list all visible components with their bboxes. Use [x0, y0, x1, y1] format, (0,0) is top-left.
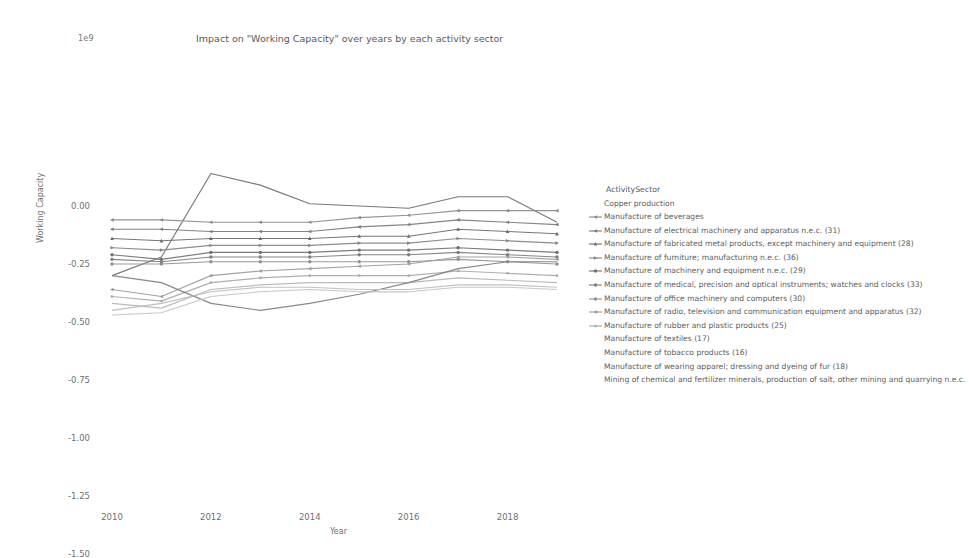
legend-swatch-icon	[588, 197, 604, 211]
legend-item[interactable]: Manufacture of fabricated metal products…	[588, 237, 948, 251]
legend-item-label: Manufacture of electrical machinery and …	[604, 224, 840, 238]
legend-item-label: Manufacture of beverages	[604, 210, 704, 224]
legend-title: ActivitySector	[606, 185, 948, 194]
legend-item-label: Manufacture of machinery and equipment n…	[604, 264, 806, 278]
series-line	[111, 270, 559, 303]
legend-item[interactable]: Manufacture of beverages	[588, 210, 948, 224]
legend-item[interactable]: Manufacture of rubber and plastic produc…	[588, 319, 948, 333]
legend-swatch-icon	[588, 210, 604, 224]
legend: ActivitySector Copper productionManufact…	[588, 185, 948, 387]
legend-item[interactable]: Manufacture of medical, precision and op…	[588, 278, 948, 292]
legend-item-label: Manufacture of fabricated metal products…	[604, 237, 914, 251]
legend-swatch-icon	[588, 292, 604, 306]
legend-item-label: Manufacture of office machinery and comp…	[604, 292, 805, 306]
legend-swatch-icon	[588, 224, 604, 238]
legend-item-label: Manufacture of furniture; manufacturing …	[604, 251, 799, 265]
legend-item[interactable]: Manufacture of wearing apparel; dressing…	[588, 360, 948, 374]
legend-swatch-icon	[588, 237, 604, 251]
legend-items: Copper productionManufacture of beverage…	[588, 197, 948, 387]
legend-item[interactable]: Manufacture of electrical machinery and …	[588, 224, 948, 238]
legend-item[interactable]: Manufacture of tobacco products (16)	[588, 346, 948, 360]
legend-swatch-icon	[588, 346, 604, 360]
chart-canvas: 1e9 Impact on "Working Capacity" over ye…	[0, 0, 969, 558]
legend-item-label: Manufacture of tobacco products (16)	[604, 346, 748, 360]
legend-swatch-icon	[588, 305, 604, 319]
legend-swatch-icon	[588, 251, 604, 265]
legend-item[interactable]: Manufacture of radio, television and com…	[588, 305, 948, 319]
legend-swatch-icon	[588, 373, 604, 387]
legend-item-label: Mining of chemical and fertilizer minera…	[604, 373, 965, 387]
legend-item[interactable]: Manufacture of furniture; manufacturing …	[588, 251, 948, 265]
legend-item[interactable]: Copper production	[588, 197, 948, 211]
legend-item-label: Manufacture of rubber and plastic produc…	[604, 319, 787, 333]
legend-item-label: Manufacture of wearing apparel; dressing…	[604, 360, 848, 374]
legend-swatch-icon	[588, 360, 604, 374]
legend-swatch-icon	[588, 264, 604, 278]
legend-swatch-icon	[588, 278, 604, 292]
legend-item-label: Manufacture of medical, precision and op…	[604, 278, 923, 292]
series-line	[112, 278, 557, 308]
legend-item[interactable]: Manufacture of textiles (17)	[588, 332, 948, 346]
legend-item[interactable]: Manufacture of office machinery and comp…	[588, 292, 948, 306]
legend-swatch-icon	[588, 319, 604, 333]
legend-swatch-icon	[588, 332, 604, 346]
legend-item-label: Copper production	[604, 197, 675, 211]
legend-item-label: Manufacture of radio, television and com…	[604, 305, 922, 319]
legend-item-label: Manufacture of textiles (17)	[604, 332, 710, 346]
series-line	[112, 262, 557, 311]
legend-item[interactable]: Mining of chemical and fertilizer minera…	[588, 373, 948, 387]
legend-item[interactable]: Manufacture of machinery and equipment n…	[588, 264, 948, 278]
